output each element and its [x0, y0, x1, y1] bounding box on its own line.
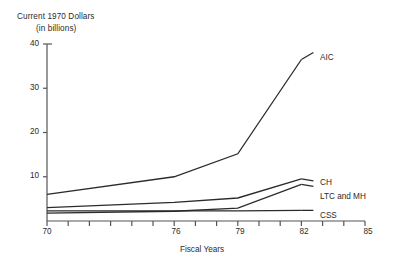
axis-lines: [47, 44, 365, 221]
leader-line-ltc-and-mh: [301, 184, 313, 186]
axis-ticks: [43, 44, 365, 226]
leader-line-ch: [301, 179, 313, 181]
chart-page: Current 1970 Dollars (in billions) 40 30…: [0, 0, 404, 262]
leader-line-aic: [301, 52, 313, 59]
chart-plot-area: [0, 0, 404, 262]
series-line-ch: [47, 179, 301, 208]
series-lines: [47, 52, 313, 213]
series-line-aic: [47, 59, 301, 194]
